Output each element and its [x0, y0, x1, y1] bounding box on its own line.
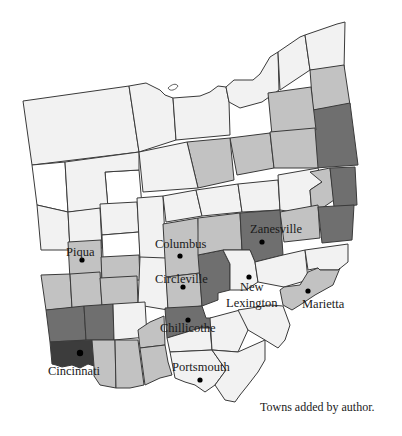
town-dot-marietta [305, 288, 310, 293]
sandusky-bay-shape [168, 84, 178, 90]
county-sw-light-1 [41, 274, 72, 310]
ohio-county-map: Piqua Columbus Circleville Zanesville Ne… [0, 0, 402, 436]
county-w-l-4 [100, 202, 139, 235]
county-e-white-5 [305, 244, 348, 270]
town-dot-columbus [177, 253, 182, 258]
map-canvas: Piqua Columbus Circleville Zanesville Ne… [0, 0, 402, 436]
county-ne-dark [313, 103, 358, 168]
county-w-l-6 [137, 196, 166, 262]
label-chillicothe: Chillicothe [160, 321, 216, 335]
label-new: New [240, 280, 264, 294]
county-ne-light [310, 65, 350, 110]
town-dot-new-lexington [246, 274, 251, 279]
county-w-l-5 [102, 232, 140, 258]
county-ne-top [305, 22, 345, 70]
county-sw-light-2 [70, 272, 102, 308]
label-cincinnati: Cincinnati [48, 364, 101, 378]
county-c-l-4 [238, 180, 280, 212]
town-dot-cincinnati [77, 350, 83, 356]
label-circleville: Circleville [155, 272, 208, 286]
county-sw-dark-1 [46, 306, 86, 342]
county-n-light-b [230, 133, 274, 175]
map-caption: Towns added by author. [260, 400, 374, 414]
label-marietta: Marietta [302, 297, 345, 311]
county-sw-light-3 [100, 276, 138, 306]
label-piqua: Piqua [66, 245, 95, 259]
county-w-l-2 [37, 205, 70, 250]
label-columbus: Columbus [155, 237, 207, 251]
county-sw-dark-2 [84, 304, 114, 340]
county-layer [23, 22, 358, 402]
county-nw-white-1 [32, 162, 68, 212]
label-zanesville: Zanesville [250, 222, 303, 236]
town-dot-portsmouth [197, 377, 202, 382]
county-e-dark-1 [330, 167, 357, 207]
county-n-light-c [270, 128, 318, 168]
county-c-l-3 [196, 184, 242, 216]
county-n-light-a [268, 87, 316, 135]
county-nw-3 [173, 86, 230, 140]
county-s-light-4 [140, 345, 172, 385]
county-n-5 [278, 35, 310, 90]
county-c-l-2 [163, 190, 202, 222]
county-nw-1 [23, 86, 139, 165]
label-portsmouth: Portsmouth [172, 360, 230, 374]
county-e-dark-2 [318, 205, 354, 243]
label-lexington: Lexington [226, 296, 278, 310]
town-dot-zanesville [259, 239, 264, 244]
